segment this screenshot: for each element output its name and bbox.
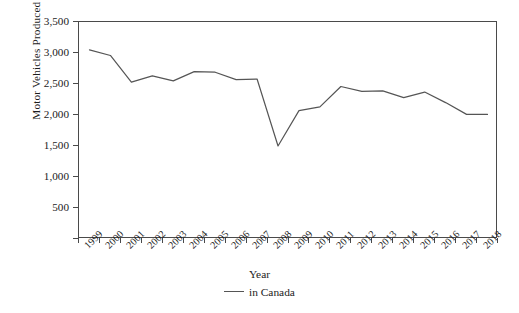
chart-figure: Motor Vehicles Produced (thousands) 5001… [0,0,519,313]
y-tick-label: 1,500 [44,139,69,151]
y-tick-label: 2,000 [44,108,69,120]
plot-area [78,21,497,238]
x-axis-title: Year [0,268,519,280]
y-tick-label: 3,500 [44,15,69,27]
series-line-in-canada [79,22,498,239]
legend-line-swatch [224,291,244,292]
y-tick-label: 500 [52,201,69,213]
y-axis-ticks: 5001,0001,5002,0002,5003,0003,500 [0,0,78,260]
chart-legend: in Canada [0,285,519,298]
legend-label-in-canada: in Canada [249,286,295,298]
y-tick-label: 1,000 [44,170,69,182]
y-tick-label: 3,000 [44,46,69,58]
y-tick-label: 2,500 [44,77,69,89]
